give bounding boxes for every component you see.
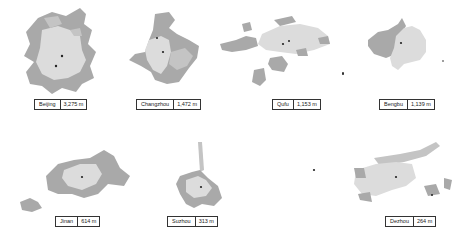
city-label-changzhou: Changzhou 1,472 m [136,99,201,110]
city-value: 1,153 m [294,100,320,109]
city-name: Beijing [35,100,61,109]
city-name: Bengbu [380,100,408,109]
city-name: Jinan [56,217,78,226]
city-label-dezhou: Dezhou 264 m [385,216,436,227]
city-name: Qufu [273,100,294,109]
city-label-beijing: Beijing 3,275 m [34,99,87,110]
city-panel-dezhou: Dezhou 264 m [260,120,467,235]
jinan-footprint [0,120,140,220]
changzhou-footprint [115,0,215,100]
bengbu-footprint [340,0,467,100]
city-value: 264 m [414,217,435,226]
city-value: 1,139 m [408,100,434,109]
city-panel-changzhou: Changzhou 1,472 m [115,0,215,115]
city-panel-qufu: Qufu 1,153 m [210,0,350,115]
city-label-qufu: Qufu 1,153 m [272,99,321,110]
city-label-bengbu: Bengbu 1,139 m [379,99,435,110]
city-panel-jinan: Jinan 614 m [0,120,140,235]
city-value: 1,472 m [174,100,200,109]
city-value: 313 m [196,217,217,226]
city-label-suzhou: Suzhou 313 m [167,216,218,227]
city-panel-bengbu: Bengbu 1,139 m [340,0,467,115]
city-value: 614 m [78,217,99,226]
city-label-jinan: Jinan 614 m [55,216,100,227]
city-name: Changzhou [137,100,174,109]
beijing-footprint [0,0,120,100]
city-name: Dezhou [386,217,414,226]
suzhou-footprint [140,120,260,220]
city-value: 3,275 m [61,100,87,109]
dezhou-footprint [260,120,467,220]
city-name: Suzhou [168,217,196,226]
city-panel-beijing: Beijing 3,275 m [0,0,120,115]
qufu-footprint [210,0,350,100]
city-panel-suzhou: Suzhou 313 m [140,120,260,235]
